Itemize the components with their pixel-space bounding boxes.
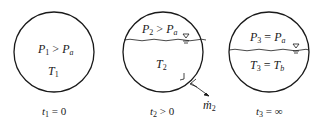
time-label-1: t1 = 0 [42,105,66,119]
outflow-arrow-icon [190,79,209,96]
liquid-surface-2 [124,39,206,41]
temp-label-3: T3 = Tb [250,58,284,73]
tank-3 [229,12,309,92]
time-label-3: t3 = ∞ [256,105,283,119]
valve-icon [180,73,184,80]
pressure-label-1: P1 > Pa [38,42,73,57]
free-surface-symbol-icon [183,34,189,43]
pressure-label-2: P2 > Pa [142,22,177,37]
time-label-2: t2 > 0 [150,105,174,119]
temp-label-1: T1 [48,64,59,79]
liquid-surface-3 [229,49,309,51]
temp-label-2: T2 [156,57,167,72]
pressure-label-3: P3 = Pa [250,30,285,45]
free-surface-symbol-icon [293,44,299,53]
mass-flow-label: ṁ2 [203,98,216,113]
